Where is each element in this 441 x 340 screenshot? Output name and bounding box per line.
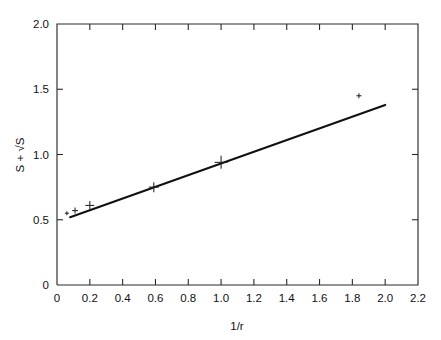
x-tick-label: 0.4 [115,292,132,304]
fit-line [70,105,385,217]
x-tick-label: 0 [54,292,60,304]
x-tick-label: 2.2 [410,292,426,304]
x-tick-label: 1.4 [279,292,296,304]
x-tick-label: 0.2 [82,292,98,304]
x-tick-label: 1.2 [246,292,262,304]
y-tick-label: 0.5 [33,214,49,226]
data-point-marker [65,211,69,215]
y-tick-label: 1.5 [33,83,49,95]
y-axis-title: S + √S [14,137,26,172]
data-points [65,93,362,215]
data-point-marker [149,182,159,192]
x-tick-label: 0.6 [147,292,163,304]
x-tick-label: 2.0 [377,292,393,304]
y-axis-tick-labels: 00.51.01.52.0 [33,18,49,291]
data-point-marker [215,156,228,169]
x-axis-tick-labels: 00.20.40.60.81.01.21.41.61.82.02.2 [54,292,426,304]
x-axis-ticks [90,24,385,285]
scatter-plot: 00.20.40.60.81.01.21.41.61.82.02.2 00.51… [0,0,441,340]
y-axis-ticks [57,89,418,220]
data-point-marker [72,208,78,214]
x-axis-title: 1/r [230,320,244,332]
y-tick-label: 2.0 [33,18,49,30]
figure-container: 00.20.40.60.81.01.21.41.61.82.02.2 00.51… [0,0,441,340]
y-tick-label: 0 [43,279,49,291]
y-tick-label: 1.0 [33,149,49,161]
x-tick-label: 0.8 [180,292,196,304]
data-point-marker [356,93,361,98]
x-tick-label: 1.8 [344,292,360,304]
x-tick-label: 1.0 [213,292,229,304]
x-tick-label: 1.6 [312,292,328,304]
plot-frame [57,24,418,285]
